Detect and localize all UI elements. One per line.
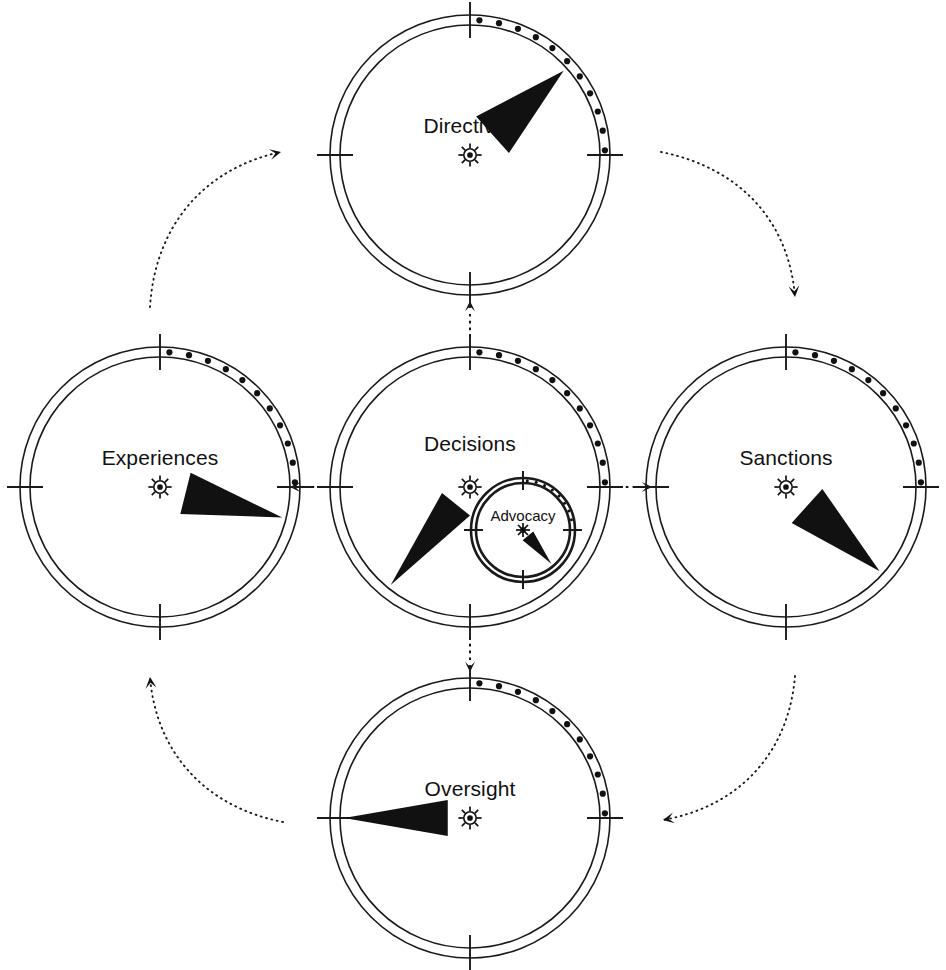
- gauge-arc-dot: [916, 460, 922, 466]
- cycle-connector-sanctions-to-oversight: [663, 676, 795, 823]
- gauge-arc-dot: [570, 518, 573, 521]
- gauge-arc-dot: [476, 680, 482, 686]
- sun-core: [467, 815, 473, 821]
- gauge-arc-dot: [277, 422, 283, 428]
- sun-ray: [165, 479, 168, 482]
- gauge-arc-dot: [535, 481, 538, 484]
- sun-ray: [462, 492, 465, 495]
- gauge-arc-dot: [267, 405, 273, 411]
- sun-icon: [458, 143, 481, 166]
- gauge-pointer: [792, 489, 880, 571]
- gauge-arc-dot: [533, 34, 539, 40]
- cycle-connector-path: [663, 676, 795, 820]
- gauge-arc-dot: [223, 366, 229, 372]
- gauge-arc-dot: [893, 405, 899, 411]
- gauge-label-oversight: Oversight: [425, 777, 516, 800]
- sun-ray: [791, 492, 794, 495]
- gauge-experiences: Experiences: [7, 334, 313, 640]
- gauge-arc-dot: [792, 349, 798, 355]
- gauge-pointer: [476, 71, 564, 153]
- gauge-arc-dot: [564, 721, 570, 727]
- gauge-arc-dot: [533, 697, 539, 703]
- sun-icon: [458, 806, 481, 829]
- diagram-canvas: DirectivesSanctionsOversightExperiencesD…: [0, 0, 946, 970]
- sun-core: [467, 152, 473, 158]
- sun-icon: [458, 475, 481, 498]
- gauge-arc-dot: [812, 352, 818, 358]
- gauge-pointer: [391, 493, 470, 585]
- sun-ray: [462, 160, 465, 163]
- gauge-arc-dot: [543, 484, 546, 487]
- gauge-arc-dot: [600, 128, 606, 134]
- gauge-label-experiences: Experiences: [102, 446, 219, 469]
- gauge-label-directives: Directives: [423, 114, 516, 137]
- sun-ray: [778, 492, 781, 495]
- gauge-arc-dot: [595, 771, 601, 777]
- sun-ray: [475, 492, 478, 495]
- cycle-diagram: DirectivesSanctionsOversightExperiencesD…: [0, 0, 946, 970]
- cycle-connector-path: [661, 152, 795, 297]
- sun-ray: [165, 492, 168, 495]
- gauge-arc-dot: [254, 390, 260, 396]
- sun-icon: [148, 475, 171, 498]
- asterisk-icon: [516, 523, 530, 537]
- gauge-arc-dot: [285, 440, 291, 446]
- sun-ray: [462, 479, 465, 482]
- gauge-arc-dot: [831, 358, 837, 364]
- gauge-arc-dot: [186, 352, 192, 358]
- gauge-sanctions: Sanctions: [633, 334, 939, 640]
- gauge-arc-dot: [595, 440, 601, 446]
- gauge-arc-dot: [600, 791, 606, 797]
- gauge-pointer: [344, 800, 448, 836]
- gauge-label-decisions: Decisions: [424, 432, 516, 455]
- sun-icon: [774, 475, 797, 498]
- gauge-arc-dot: [564, 58, 570, 64]
- gauge-arc-dot: [602, 479, 608, 485]
- gauge-arc-dot: [290, 460, 296, 466]
- gauge-directives: Directives: [317, 2, 623, 308]
- cycle-connector-path: [150, 152, 281, 307]
- gauge-arc-dot: [587, 422, 593, 428]
- gauge-arc-dot: [595, 108, 601, 114]
- gauge-label-sanctions: Sanctions: [739, 446, 832, 469]
- gauge-arc-dot: [918, 479, 924, 485]
- cycle-connector-directives-to-sanctions: [661, 152, 799, 297]
- gauge-arc-dot: [549, 377, 555, 383]
- sun-ray: [475, 160, 478, 163]
- sun-ray: [778, 479, 781, 482]
- gauge-arc-dot: [496, 20, 502, 26]
- gauge-arc-dot: [567, 510, 570, 513]
- gauge-decisions: Decisions: [317, 334, 623, 640]
- gauge-arc-dot: [903, 422, 909, 428]
- sun-core: [783, 484, 789, 490]
- gauge-pointer: [180, 473, 282, 518]
- gauge-arc-dot: [602, 810, 608, 816]
- gauge-arc-dot: [587, 90, 593, 96]
- sun-ray: [475, 810, 478, 813]
- gauge-arc-dot: [166, 349, 172, 355]
- sun-ray: [462, 147, 465, 150]
- sun-ray: [475, 823, 478, 826]
- gauge-arc-dot: [526, 479, 529, 482]
- gauge-oversight: Oversight: [317, 665, 623, 970]
- gauge-arc-dot: [577, 73, 583, 79]
- gauge-arc-dot: [564, 390, 570, 396]
- sun-ray: [152, 479, 155, 482]
- gauge-arc-dot: [577, 736, 583, 742]
- gauge-arc-dot: [577, 405, 583, 411]
- gauge-arc-dot: [239, 377, 245, 383]
- gauge-arc-dot: [549, 708, 555, 714]
- cycle-connector-oversight-to-experiences: [146, 677, 283, 822]
- gauge-arc-dot: [515, 26, 521, 32]
- gauge-arc-dot: [549, 45, 555, 51]
- gauge-arc-dot: [600, 460, 606, 466]
- gauge-layer: DirectivesSanctionsOversightExperiencesD…: [7, 2, 939, 970]
- sun-ray: [791, 479, 794, 482]
- sun-core: [157, 484, 163, 490]
- gauge-arc-dot: [496, 352, 502, 358]
- cycle-arrowhead: [663, 813, 675, 824]
- gauge-arc-dot: [563, 502, 566, 505]
- gauge-arc-dot: [551, 489, 554, 492]
- gauge-arc-dot: [515, 689, 521, 695]
- gauge-arc-dot: [205, 358, 211, 364]
